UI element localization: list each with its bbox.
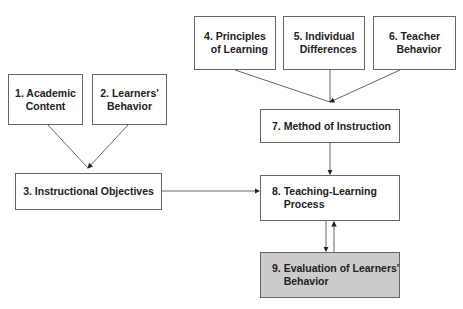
- node-principles-of-learning: 4. Principles of Learning: [194, 16, 276, 70]
- node-label: 6. Teacher Behavior: [388, 30, 442, 56]
- node-instructional-objectives: 3. Instructional Objectives: [15, 173, 162, 210]
- node-learners-behavior: 2. Learners' Behavior: [92, 74, 167, 125]
- node-academic-content: 1. Academic Content: [8, 74, 83, 125]
- node-label: 4. Principles of Learning: [202, 30, 268, 56]
- node-teacher-behavior: 6. Teacher Behavior: [373, 16, 456, 70]
- node-label: 9. Evaluation of Learners' Behavior: [272, 262, 399, 288]
- node-label: 5. Individual Differences: [291, 30, 357, 56]
- node-label: 2. Learners' Behavior: [100, 87, 159, 113]
- node-label: 7. Method of Instruction: [272, 120, 391, 133]
- node-method-of-instruction: 7. Method of Instruction: [260, 109, 400, 143]
- node-label: 1. Academic Content: [15, 87, 76, 113]
- node-individual-differences: 5. Individual Differences: [283, 16, 365, 70]
- node-teaching-learning-process: 8. Teaching-Learning Process: [260, 175, 400, 221]
- node-label: 3. Instructional Objectives: [23, 185, 154, 198]
- node-evaluation-of-learners-behavior: 9. Evaluation of Learners' Behavior: [260, 252, 400, 298]
- node-label: 8. Teaching-Learning Process: [272, 185, 377, 211]
